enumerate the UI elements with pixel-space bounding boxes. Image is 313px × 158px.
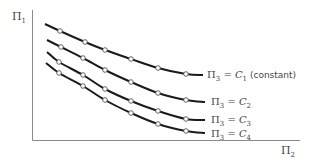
data-point-marker <box>184 72 189 77</box>
data-point-marker <box>103 68 108 73</box>
data-point-marker <box>59 45 64 50</box>
data-point-marker <box>156 91 161 96</box>
data-point-marker <box>184 98 189 103</box>
y-axis-label: Π1 <box>12 10 26 25</box>
data-point-marker <box>129 80 134 85</box>
data-point-marker <box>103 48 108 53</box>
data-point-marker <box>103 87 108 92</box>
data-point-marker <box>81 73 86 78</box>
data-point-marker <box>156 122 161 127</box>
data-point-marker <box>184 117 189 122</box>
dimensionless-groups-chart: Π1 Π2 Π3 = C1 (constant)Π3 = C2Π3 = C3Π3… <box>0 0 313 158</box>
data-point-marker <box>103 98 108 103</box>
data-point-marker <box>129 111 134 116</box>
data-point-marker <box>184 129 189 134</box>
data-point-marker <box>156 66 161 71</box>
curve-label-c3: Π3 = C3 <box>211 114 251 128</box>
curves-group <box>45 24 205 133</box>
curve-labels-group: Π3 = C1 (constant)Π3 = C2Π3 = C3Π3 = C4 <box>207 69 296 142</box>
curve-label-c2: Π3 = C2 <box>211 96 251 110</box>
data-point-marker <box>156 109 161 114</box>
data-point-marker <box>57 71 62 76</box>
curve-c2 <box>47 40 205 102</box>
data-point-marker <box>81 84 86 89</box>
curve-line <box>47 40 205 102</box>
x-axis-label: Π2 <box>281 144 295 158</box>
data-point-marker <box>129 57 134 62</box>
data-point-marker <box>57 60 62 65</box>
data-point-marker <box>81 56 86 61</box>
curve-label-c4: Π3 = C4 <box>211 128 252 142</box>
data-point-marker <box>129 99 134 104</box>
data-point-marker <box>83 40 88 45</box>
data-point-marker <box>58 29 63 34</box>
curve-label-c1: Π3 = C1 (constant) <box>207 69 296 83</box>
